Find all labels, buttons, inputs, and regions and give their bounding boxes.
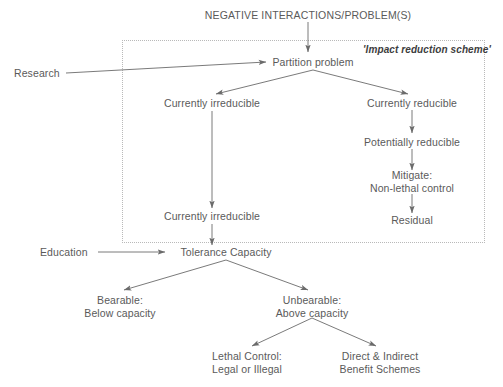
- diagram-canvas: NEGATIVE INTERACTIONS/PROBLEM(S) 'Impact…: [0, 0, 503, 387]
- node-potentially-reducible: Potentially reducible: [364, 136, 460, 149]
- node-education: Education: [40, 246, 88, 259]
- edge-unbearable-to-lethal: [252, 318, 312, 346]
- node-residual: Residual: [391, 214, 433, 227]
- node-lethal-control: Lethal Control:Legal or Illegal: [212, 350, 282, 375]
- node-research: Research: [14, 67, 60, 80]
- scheme-label: 'Impact reduction scheme': [363, 44, 491, 57]
- node-partition-problem: Partition problem: [272, 56, 353, 69]
- node-benefit-schemes: Direct & IndirectBenefit Schemes: [340, 350, 421, 375]
- node-currently-reducible: Currently reducible: [367, 97, 457, 110]
- node-currently-irreducible-2: Currently irreducible: [164, 210, 260, 223]
- node-bearable: Bearable:Below capacity: [84, 294, 155, 319]
- edge-tolerance-to-unbearable: [226, 260, 308, 290]
- diagram-title: NEGATIVE INTERACTIONS/PROBLEM(S): [205, 9, 411, 22]
- node-mitigate: Mitigate:Non-lethal control: [370, 169, 454, 194]
- node-tolerance-capacity: Tolerance Capacity: [180, 246, 271, 259]
- node-unbearable: Unbearable:Above capacity: [276, 294, 349, 319]
- node-currently-irreducible-1: Currently irreducible: [164, 97, 260, 110]
- edge-tolerance-to-bearable: [124, 260, 226, 290]
- edge-unbearable-to-benefit: [312, 318, 376, 346]
